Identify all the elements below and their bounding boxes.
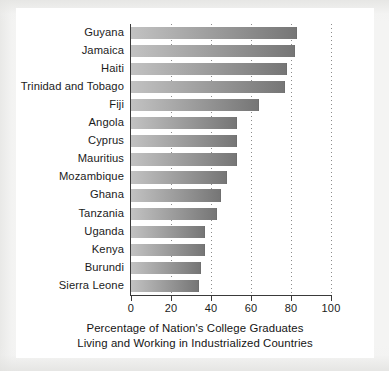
bar [131, 189, 221, 201]
caption-line-1: Percentage of Nation's College Graduates [16, 321, 374, 336]
bar-row: Angola [131, 114, 331, 132]
x-tick-60 [251, 296, 252, 301]
bar-row: Haiti [131, 60, 331, 78]
figure-page: 020406080100 GuyanaJamaicaHaitiTrinidad … [0, 0, 389, 371]
bar-row: Burundi [131, 259, 331, 277]
bar [131, 27, 297, 39]
bar-row: Trinidad and Tobago [131, 78, 331, 96]
plot-area: GuyanaJamaicaHaitiTrinidad and TobagoFij… [131, 24, 331, 295]
bar [131, 45, 295, 57]
bar-chart: 020406080100 GuyanaJamaicaHaitiTrinidad … [16, 8, 374, 358]
bar-row: Fiji [131, 96, 331, 114]
bar-row: Uganda [131, 223, 331, 241]
category-label: Angola [89, 115, 124, 130]
x-tick-40 [211, 296, 212, 301]
x-tick-80 [291, 296, 292, 301]
category-label: Mozambique [59, 169, 124, 184]
category-label: Guyana [84, 25, 124, 40]
category-label: Burundi [85, 260, 124, 275]
bar [131, 280, 199, 292]
category-label: Jamaica [82, 43, 124, 58]
x-tick-label-80: 80 [285, 302, 298, 314]
bar [131, 226, 205, 238]
x-tick-label-100: 100 [322, 302, 341, 314]
bar-row: Tanzania [131, 205, 331, 223]
category-label: Sierra Leone [59, 278, 124, 293]
x-tick-label-60: 60 [245, 302, 258, 314]
bar-row: Mozambique [131, 168, 331, 186]
category-label: Haiti [101, 61, 124, 76]
bar-row: Cyprus [131, 132, 331, 150]
x-tick-label-20: 20 [165, 302, 178, 314]
caption-line-2: Living and Working in Industrialized Cou… [16, 336, 374, 351]
category-label: Uganda [84, 224, 124, 239]
bar-row: Ghana [131, 186, 331, 204]
bar [131, 244, 205, 256]
x-tick-100 [331, 296, 332, 301]
bar [131, 117, 237, 129]
chart-caption: Percentage of Nation's College Graduates… [16, 321, 374, 351]
x-tick-20 [171, 296, 172, 301]
bar-row: Mauritius [131, 150, 331, 168]
gridline-100 [331, 24, 332, 295]
x-tick-0 [131, 296, 132, 301]
x-tick-label-40: 40 [205, 302, 218, 314]
bar-row: Guyana [131, 24, 331, 42]
category-label: Tanzania [78, 206, 124, 221]
category-label: Kenya [92, 242, 124, 257]
category-label: Ghana [90, 187, 124, 202]
bar-row: Sierra Leone [131, 277, 331, 295]
category-label: Cyprus [88, 133, 124, 148]
bar [131, 262, 201, 274]
bar-row: Kenya [131, 241, 331, 259]
bar [131, 208, 217, 220]
category-label: Fiji [109, 97, 124, 112]
x-axis-line [130, 295, 332, 296]
bar [131, 99, 259, 111]
bar [131, 171, 227, 183]
bar [131, 63, 287, 75]
category-label: Mauritius [78, 151, 124, 166]
x-tick-label-0: 0 [128, 302, 134, 314]
bar [131, 153, 237, 165]
bar [131, 135, 237, 147]
category-label: Trinidad and Tobago [21, 79, 124, 94]
chart-plate: 020406080100 GuyanaJamaicaHaitiTrinidad … [16, 8, 374, 358]
bar-row: Jamaica [131, 42, 331, 60]
bar [131, 81, 285, 93]
